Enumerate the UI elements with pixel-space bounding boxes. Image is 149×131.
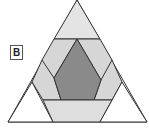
figure-label: B: [10, 45, 23, 60]
triangle-diagram: [0, 0, 149, 131]
top-triangle: [54, 0, 100, 39]
figure-label-text: B: [13, 47, 20, 58]
